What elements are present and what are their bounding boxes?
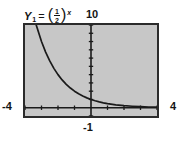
y-max-label: 10 xyxy=(86,9,98,20)
x-min-label: -4 xyxy=(2,101,12,112)
graph-screenshot: Y1 = ( 1 2 )x 10 -4 4 -1 xyxy=(0,0,182,141)
plot-frame xyxy=(23,23,159,118)
exponential-decay-curve xyxy=(36,25,157,107)
plot-canvas xyxy=(25,25,157,116)
paren-open: ( xyxy=(48,8,53,22)
function-variable: Y xyxy=(24,11,31,22)
exponent-x: x xyxy=(67,9,71,16)
fraction-one-half: 1 2 xyxy=(54,8,60,24)
function-subscript: 1 xyxy=(32,16,36,23)
fraction-numerator: 1 xyxy=(54,8,60,15)
x-tick-label: -1 xyxy=(83,122,93,133)
x-max-label: 4 xyxy=(170,101,176,112)
equals-sign: = xyxy=(38,11,44,22)
function-label: Y1 = ( 1 2 )x xyxy=(24,8,71,24)
paren-close: ) xyxy=(61,8,66,22)
